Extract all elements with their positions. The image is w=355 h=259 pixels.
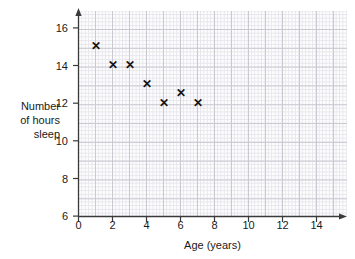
x-tick-label-2: 2 [109, 220, 115, 231]
data-point-marker: ✕ [107, 60, 118, 71]
plot-area [78, 11, 347, 216]
x-tick-label-12: 12 [276, 220, 288, 231]
x-tick-label-10: 10 [242, 220, 254, 231]
y-axis-title: Number of hours sleep [2, 99, 60, 141]
y-tick-label-16: 16 [56, 22, 68, 33]
x-tick-label-4: 4 [143, 220, 149, 231]
data-point-marker: ✕ [141, 79, 152, 90]
scatter-chart: 16 14 12 10 8 6 0 2 4 6 8 10 12 14 Age (… [0, 0, 355, 259]
y-tick-label-8: 8 [62, 173, 68, 184]
x-axis-title: Age (years) [78, 239, 347, 251]
data-point-marker: ✕ [124, 60, 135, 71]
data-point-marker: ✕ [90, 41, 101, 52]
data-point-marker: ✕ [158, 98, 169, 109]
x-tick-label-14: 14 [310, 220, 322, 231]
y-tick-label-14: 14 [56, 60, 68, 71]
x-tick-label-8: 8 [211, 220, 217, 231]
x-tick-label-0: 0 [75, 220, 81, 231]
y-tick-label-6: 6 [62, 211, 68, 222]
data-point-marker: ✕ [175, 88, 186, 99]
y-axis-title-line-2: of hours [2, 113, 60, 127]
data-point-marker: ✕ [192, 98, 203, 109]
y-axis-title-line-3: sleep [2, 127, 60, 141]
y-axis-title-line-1: Number [2, 99, 60, 113]
x-tick-label-6: 6 [177, 220, 183, 231]
